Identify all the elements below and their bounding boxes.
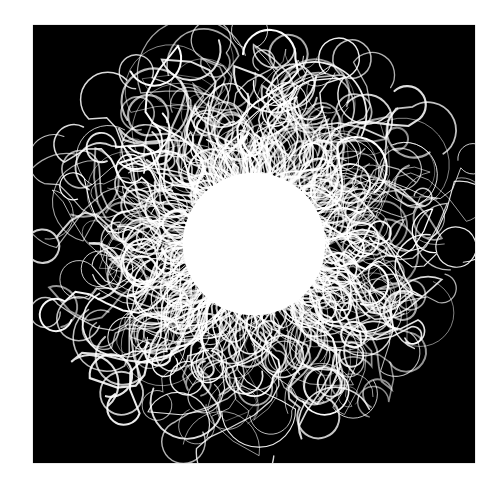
radial-burst-artwork — [33, 25, 475, 463]
artwork-canvas: White hairy radial burst on black square — [33, 25, 475, 463]
